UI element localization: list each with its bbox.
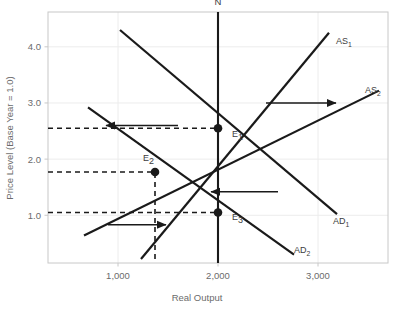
y-tick-label-3: 4.0: [28, 41, 41, 52]
equilibrium-point-e3: [214, 208, 223, 217]
aggregate-supply-demand-chart: AS1AS2AD1AD2N E1E2E3 1.02.03.04.01,0002,…: [0, 0, 394, 311]
x-axis-title: Real Output: [172, 292, 223, 303]
y-tick-label-2: 3.0: [28, 97, 41, 108]
x-tick-label-0: 1,000: [106, 270, 130, 281]
y-axis-title: Price Level (Base Year = 1.0): [4, 76, 15, 199]
y-tick-label-1: 2.0: [28, 154, 41, 165]
y-tick-label-0: 1.0: [28, 210, 41, 221]
x-tick-label-1: 2,000: [206, 270, 230, 281]
curve-label-n: N: [215, 0, 222, 7]
x-tick-label-2: 3,000: [306, 270, 330, 281]
equilibrium-point-e1: [214, 124, 223, 133]
equilibrium-point-e2: [151, 168, 160, 177]
chart-figure: AS1AS2AD1AD2N E1E2E3 1.02.03.04.01,0002,…: [0, 0, 394, 311]
